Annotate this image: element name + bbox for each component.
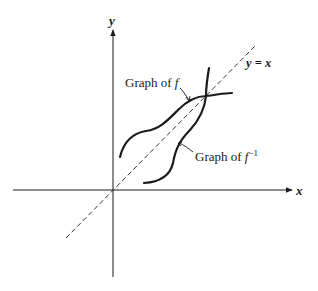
pointer-f-inverse [179, 143, 193, 152]
label-f-prefix: Graph of [125, 75, 175, 90]
label-f-symbol: f [175, 75, 181, 90]
label-graph-of-f-inverse: Graph of f−1 [195, 148, 258, 164]
identity-line [66, 45, 256, 238]
label-finv-prefix: Graph of [195, 149, 245, 164]
label-finv-superscript: −1 [248, 148, 258, 158]
y-axis-label: y [107, 13, 115, 28]
label-graph-of-f: Graph of f [125, 75, 181, 90]
x-axis-label: x [295, 183, 303, 198]
pointer-f [180, 88, 189, 100]
identity-line-label: y = x [244, 56, 271, 70]
diagram-canvas: y x y = x Graph of f Graph of f−1 [0, 0, 318, 291]
curve-f [120, 93, 232, 157]
